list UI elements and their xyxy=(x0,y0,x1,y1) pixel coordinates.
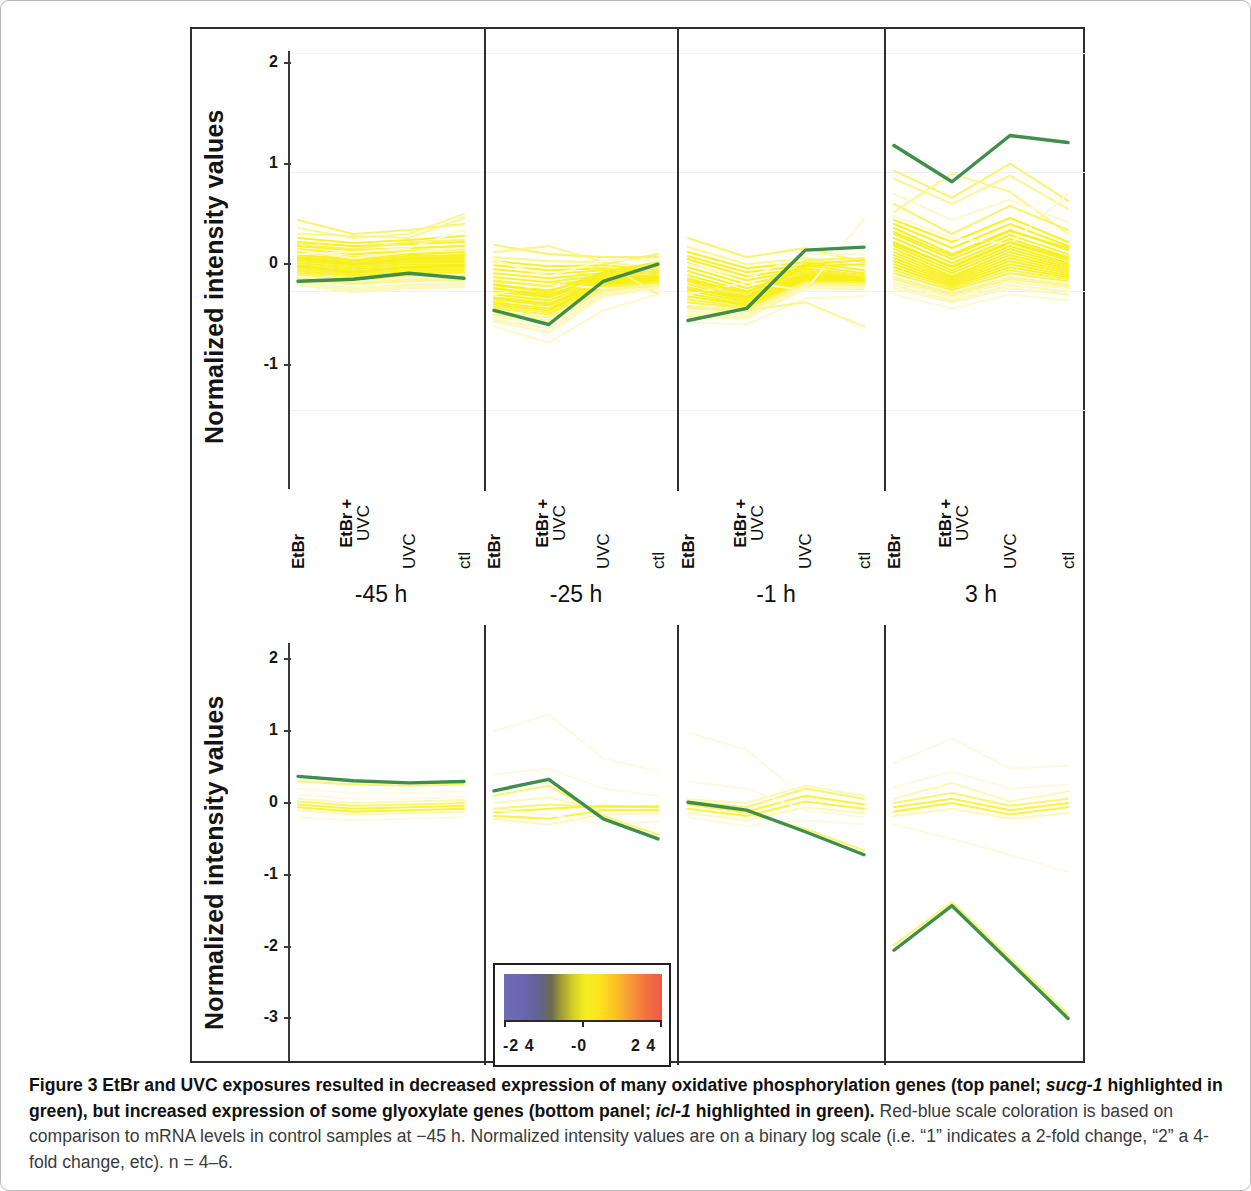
data-line xyxy=(894,218,1068,242)
figure-frame: Normalized intensity values 210-1 EtBrEt… xyxy=(190,27,1085,1063)
caption-bold-a: EtBr and UVC exposures resulted in decre… xyxy=(102,1075,1045,1095)
legend-label-min: -2 4 xyxy=(503,1037,535,1055)
x-tick-label: ctl xyxy=(455,499,475,569)
data-line xyxy=(894,906,1068,1019)
x-tick-label-etbr-plus: EtBr + xyxy=(937,499,954,548)
x-tick-label: UVC xyxy=(594,499,614,569)
x-tick-label: EtBr xyxy=(679,499,699,569)
x-tick-label: ctl xyxy=(1059,499,1079,569)
figure-page: Normalized intensity values 210-1 EtBrEt… xyxy=(0,0,1251,1191)
x-tick-label: UVC xyxy=(400,499,420,569)
data-line xyxy=(894,294,1068,308)
x-tick-label: EtBr xyxy=(289,499,309,569)
x-tick-label: ctl xyxy=(649,499,669,569)
data-line xyxy=(894,771,1068,788)
x-tick-label: EtBr xyxy=(885,499,905,569)
data-line xyxy=(894,902,1068,1014)
x-tick-label: EtBr +UVC xyxy=(732,499,766,579)
data-line xyxy=(298,794,464,798)
x-tick-label-uvc: UVC xyxy=(551,505,568,541)
x-tick-label: EtBr +UVC xyxy=(534,499,568,579)
legend-label-max: 2 4 xyxy=(631,1037,656,1055)
x-tick-label-uvc: UVC xyxy=(355,505,372,541)
figure-label: Figure 3 xyxy=(29,1075,97,1095)
x-group-label: -1 h xyxy=(658,581,894,608)
data-line xyxy=(298,789,464,793)
x-tick-label: ctl xyxy=(855,499,875,569)
legend-tick-min xyxy=(504,1020,506,1027)
x-group-label: -45 h xyxy=(268,581,494,608)
data-line xyxy=(894,738,1068,768)
data-line xyxy=(494,779,658,839)
top-panel-line-plot xyxy=(192,29,1085,491)
x-tick-label-uvc: UVC xyxy=(954,505,971,541)
legend-tick-mid xyxy=(582,1020,584,1027)
legend-tick-max xyxy=(660,1020,662,1027)
data-line xyxy=(894,825,1068,872)
caption-bold-c: highlighted in green). xyxy=(691,1101,875,1121)
figure-caption: Figure 3 EtBr and UVC exposures resulted… xyxy=(29,1073,1227,1175)
legend-label-mid: -0 xyxy=(571,1037,587,1055)
color-scale-legend: -2 4 -0 2 4 xyxy=(493,963,671,1067)
x-tick-label: EtBr xyxy=(485,499,505,569)
data-line xyxy=(298,817,464,820)
data-line xyxy=(494,715,658,772)
caption-gene-icl1: icl-1 xyxy=(656,1101,691,1121)
data-line xyxy=(894,135,1068,181)
color-scale-gradient-bar xyxy=(504,974,662,1020)
x-tick-label: UVC xyxy=(1001,499,1021,569)
x-tick-label-etbr-plus: EtBr + xyxy=(732,499,749,548)
x-tick-label: EtBr +UVC xyxy=(937,499,971,579)
data-line xyxy=(494,245,658,257)
x-tick-label-uvc: UVC xyxy=(749,505,766,541)
x-tick-label-etbr-plus: EtBr + xyxy=(338,499,355,548)
x-group-label: -25 h xyxy=(464,581,688,608)
x-tick-label-etbr-plus: EtBr + xyxy=(534,499,551,548)
x-group-label: 3 h xyxy=(864,581,1098,608)
x-tick-label: UVC xyxy=(796,499,816,569)
caption-gene-sucg1: sucg-1 xyxy=(1046,1075,1103,1095)
x-tick-label: EtBr +UVC xyxy=(338,499,372,579)
